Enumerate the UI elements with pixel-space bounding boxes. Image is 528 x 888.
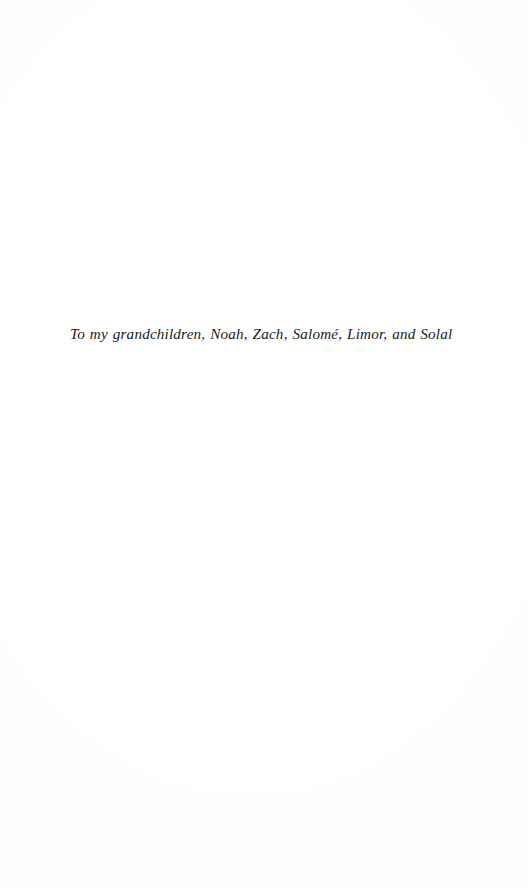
dedication-text: To my grandchildren, Noah, Zach, Salomé,… — [70, 325, 460, 343]
dedication-page: To my grandchildren, Noah, Zach, Salomé,… — [0, 0, 528, 888]
